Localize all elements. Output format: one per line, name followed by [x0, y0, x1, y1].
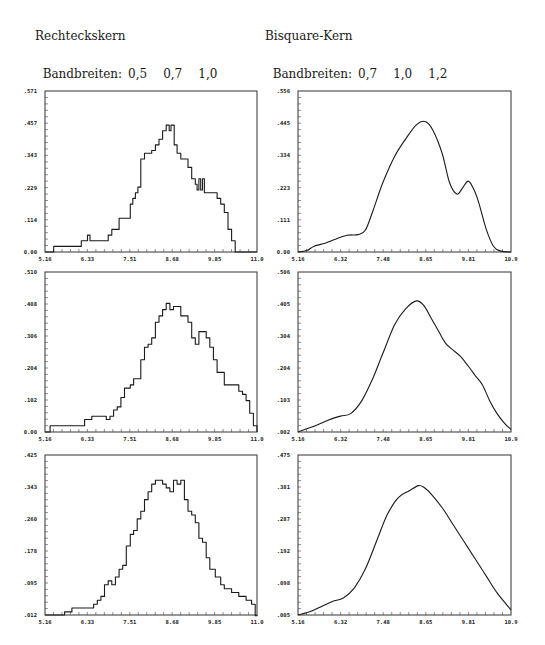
x-tick-label: 5.16 [38, 256, 52, 262]
x-tick-label: 6.32 [334, 256, 347, 262]
y-tick-label: .510 [24, 269, 37, 275]
y-tick-label: .005 [277, 612, 290, 618]
y-tick-label: .103 [277, 397, 290, 403]
y-tick-label: .457 [24, 120, 37, 126]
y-tick-label: .002 [277, 429, 290, 435]
x-tick-label: 5.16 [291, 436, 305, 442]
histogram-step-curve [45, 303, 257, 432]
x-tick-label: 9.81 [462, 436, 476, 442]
y-tick-label: .229 [24, 185, 37, 191]
x-tick-label: 6.32 [334, 619, 347, 625]
y-tick-label: .405 [277, 301, 290, 307]
x-tick-label: 6.33 [81, 256, 94, 262]
x-tick-label: 5.16 [291, 256, 305, 262]
x-tick-label: 8.65 [419, 619, 432, 625]
y-tick-label: .475 [277, 452, 290, 458]
plot-frame [298, 91, 511, 252]
x-tick-label: 9.85 [208, 256, 221, 262]
x-tick-label: 8.68 [166, 436, 179, 442]
y-tick-label: .012 [24, 612, 37, 618]
density-plots-grid: 0.00.114.229.343.457.5715.166.337.518.68… [0, 0, 545, 645]
x-tick-label: 7.51 [123, 256, 137, 262]
x-tick-label: 8.68 [166, 256, 179, 262]
plot-frame [298, 272, 511, 432]
y-tick-label: .098 [277, 580, 290, 586]
y-tick-label: .223 [277, 185, 290, 191]
y-tick-label: .425 [24, 452, 37, 458]
plot-panel-3: 0.00.102.204.306.408.5105.166.337.518.68… [24, 269, 264, 442]
plot-panel-4: .002.103.204.304.405.5065.166.327.488.65… [277, 269, 518, 442]
x-tick-label: 11.0 [250, 256, 263, 262]
y-tick-label: .192 [277, 548, 290, 554]
x-tick-label: 7.48 [377, 436, 390, 442]
y-tick-label: .571 [24, 88, 38, 94]
x-tick-label: 7.51 [123, 619, 137, 625]
y-tick-label: .381 [277, 484, 291, 490]
y-tick-label: .287 [277, 516, 290, 522]
y-tick-label: .102 [24, 397, 37, 403]
x-tick-label: 11.0 [250, 436, 263, 442]
x-tick-label: 8.65 [419, 436, 432, 442]
y-tick-label: .095 [24, 580, 37, 586]
x-tick-label: 10.9 [504, 256, 517, 262]
x-tick-label: 10.9 [504, 619, 517, 625]
y-tick-label: .334 [277, 152, 291, 158]
x-tick-label: 8.68 [166, 619, 179, 625]
y-tick-label: .556 [277, 88, 291, 94]
plot-frame [45, 272, 257, 432]
x-tick-label: 9.81 [462, 256, 476, 262]
x-tick-label: 6.33 [81, 619, 94, 625]
x-tick-label: 6.33 [81, 436, 94, 442]
y-tick-label: 0.00 [277, 249, 290, 255]
histogram-step-curve [45, 480, 257, 616]
x-tick-label: 8.65 [419, 256, 432, 262]
y-tick-label: .204 [277, 365, 291, 371]
y-tick-label: .506 [277, 269, 291, 275]
x-tick-label: 9.81 [462, 619, 476, 625]
y-tick-label: 0.00 [24, 429, 37, 435]
x-tick-label: 7.51 [123, 436, 137, 442]
y-tick-label: .306 [24, 333, 38, 339]
density-curve [298, 485, 511, 615]
density-curve [298, 301, 511, 432]
x-tick-label: 9.85 [208, 619, 221, 625]
y-tick-label: .204 [24, 365, 38, 371]
plot-panel-5: .012.095.178.260.343.4255.166.337.518.68… [24, 452, 264, 625]
plot-panel-6: .005.098.192.287.381.4755.166.327.488.65… [277, 452, 518, 625]
x-tick-label: 11.0 [250, 619, 263, 625]
x-tick-label: 10.9 [504, 436, 517, 442]
y-tick-label: .260 [24, 516, 37, 522]
x-tick-label: 5.16 [38, 436, 52, 442]
x-tick-label: 5.16 [291, 619, 305, 625]
y-tick-label: .178 [24, 548, 37, 554]
y-tick-label: .114 [24, 217, 38, 223]
plot-frame [45, 91, 257, 252]
y-tick-label: .343 [24, 152, 37, 158]
y-tick-label: .111 [277, 217, 291, 223]
y-tick-label: .304 [277, 333, 291, 339]
x-tick-label: 6.32 [334, 436, 347, 442]
histogram-step-curve [45, 125, 257, 252]
y-tick-label: .408 [24, 301, 37, 307]
x-tick-label: 9.85 [208, 436, 221, 442]
plot-panel-1: 0.00.114.229.343.457.5715.166.337.518.68… [24, 88, 264, 262]
plot-frame [298, 455, 511, 615]
y-tick-label: .445 [277, 120, 290, 126]
x-tick-label: 5.16 [38, 619, 52, 625]
y-tick-label: 0.00 [24, 249, 37, 255]
plot-panel-2: 0.00.111.223.334.445.5565.166.327.488.65… [277, 88, 518, 262]
x-tick-label: 7.48 [377, 619, 390, 625]
y-tick-label: .343 [24, 484, 37, 490]
density-curve [298, 121, 511, 252]
plot-frame [45, 455, 257, 615]
x-tick-label: 7.48 [377, 256, 390, 262]
